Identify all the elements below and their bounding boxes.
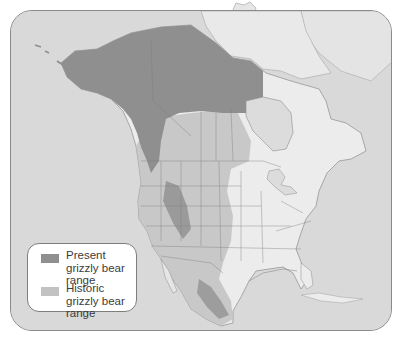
legend-label-present: Present grizzly bear range: [66, 249, 138, 287]
legend-label-historic: Historic grizzly bear range: [66, 282, 138, 320]
legend-item-historic: Historic grizzly bear range: [41, 282, 138, 320]
historic-range-swatch: [41, 287, 59, 296]
legend-item-present: Present grizzly bear range: [41, 249, 138, 287]
present-range-swatch: [41, 254, 59, 263]
legend: Present grizzly bear range Historic griz…: [27, 243, 137, 312]
